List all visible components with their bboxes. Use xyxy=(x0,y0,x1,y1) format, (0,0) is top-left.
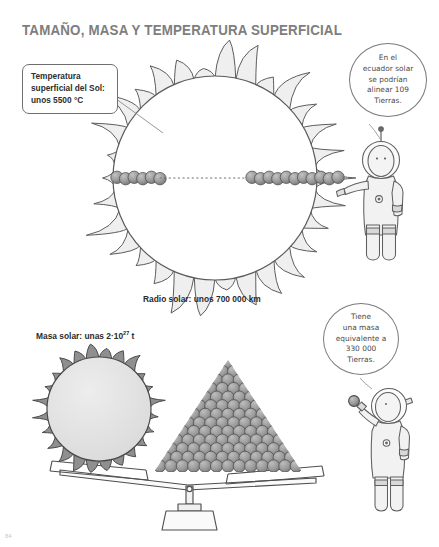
small-sun-disc xyxy=(47,357,151,461)
speech-bubble-mass: Tiene una masa equivalente a 330 000 Tie… xyxy=(323,303,399,375)
earth-sphere xyxy=(256,460,268,472)
astronaut-holding-sphere xyxy=(349,389,413,512)
temperature-callout: Temperatura superficial del Sol: unos 55… xyxy=(22,64,118,114)
earth-sphere xyxy=(290,460,302,472)
bubble-tail-top xyxy=(369,124,381,140)
earth-sphere xyxy=(245,460,257,472)
infographic-page: TAMAÑO, MASA Y TEMPERATURA SUPERFICIAL xyxy=(0,0,439,547)
earth-pyramid-stack xyxy=(153,357,302,473)
earth-sphere xyxy=(199,460,211,472)
earth-sphere xyxy=(222,460,234,472)
bubble-tail-bottom xyxy=(360,378,372,389)
small-sun-on-balance xyxy=(33,344,166,472)
solar-mass-caption: Masa solar: unas 2·1027 t xyxy=(36,330,134,341)
solar-mass-suffix: t xyxy=(129,331,134,341)
earth-sphere xyxy=(332,171,344,183)
solar-mass-prefix: Masa solar: unas 2·10 xyxy=(36,331,123,341)
earth-sphere xyxy=(188,460,200,472)
earth-sphere xyxy=(267,460,279,472)
earth-sphere xyxy=(176,460,188,472)
earth-sphere xyxy=(153,460,165,472)
earth-sphere xyxy=(279,460,291,472)
page-number: 84 xyxy=(5,533,12,539)
earth-sphere xyxy=(233,460,245,472)
speech-bubble-equator: En el ecuador solar se podrían alinear 1… xyxy=(349,43,427,117)
earth-sphere xyxy=(165,460,177,472)
earth-sphere xyxy=(210,460,222,472)
solar-radius-caption: Radio solar: unos 700 000 km xyxy=(143,294,261,304)
earth-sphere xyxy=(154,173,166,185)
astronaut-pointing xyxy=(337,127,404,260)
held-earth-sphere xyxy=(349,396,360,407)
